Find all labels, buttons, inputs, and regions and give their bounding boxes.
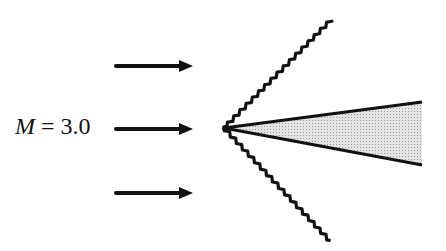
- flow-arrow-head-icon: [179, 187, 193, 199]
- flow-diagram: [0, 0, 446, 251]
- flow-arrow-head-icon: [179, 60, 193, 72]
- wedge-apex: [222, 125, 228, 131]
- upper-shock: [224, 21, 332, 128]
- diagram-canvas: M = 3.0: [0, 0, 446, 251]
- flow-arrow-head-icon: [179, 123, 193, 135]
